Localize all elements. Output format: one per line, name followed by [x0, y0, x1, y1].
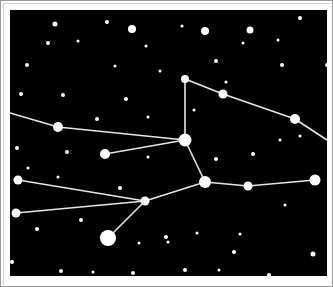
constellation-star: [12, 209, 21, 218]
background-star: [242, 42, 245, 45]
constellation-star: [14, 176, 23, 185]
constellation-star: [290, 114, 300, 124]
background-star: [159, 70, 162, 73]
background-star: [114, 65, 117, 68]
background-star: [164, 235, 168, 239]
background-star: [193, 109, 196, 112]
background-star: [299, 135, 302, 138]
background-star: [77, 40, 80, 43]
background-star: [15, 146, 19, 150]
background-star: [65, 150, 69, 154]
background-star: [25, 63, 29, 67]
constellation-star: [100, 149, 110, 159]
background-star: [92, 271, 95, 274]
constellation-star: [219, 90, 228, 99]
constellation-star: [53, 122, 63, 132]
background-star: [19, 92, 23, 96]
background-star: [218, 269, 221, 272]
background-star: [61, 93, 65, 97]
background-star: [311, 252, 316, 257]
background-star: [59, 269, 63, 273]
background-star: [232, 250, 236, 254]
background-star: [46, 41, 50, 45]
background-star: [124, 97, 128, 101]
background-star: [118, 186, 122, 190]
constellation-star: [199, 176, 211, 188]
background-star: [147, 116, 150, 119]
background-star: [183, 268, 187, 272]
background-star: [57, 176, 60, 179]
background-star: [214, 157, 218, 161]
background-star: [225, 81, 228, 84]
background-star: [147, 156, 150, 159]
background-star: [167, 241, 170, 244]
constellation-star: [179, 134, 192, 147]
background-star: [138, 242, 141, 245]
background-star: [201, 27, 209, 35]
background-star: [298, 16, 302, 20]
background-star: [284, 204, 287, 207]
background-star: [95, 117, 99, 121]
background-star: [128, 25, 136, 33]
constellation-star: [141, 197, 150, 206]
background-star: [145, 45, 148, 48]
background-star: [27, 167, 30, 170]
constellation-star: [244, 182, 253, 191]
background-star: [239, 233, 242, 236]
constellation-star: [181, 75, 189, 83]
star-map: [10, 10, 327, 276]
constellation-star: [310, 175, 321, 186]
background-star: [280, 63, 284, 67]
background-star: [251, 152, 255, 156]
background-star: [131, 271, 135, 275]
background-star: [279, 139, 282, 142]
background-star: [247, 27, 254, 34]
background-star: [214, 59, 218, 63]
background-star: [196, 232, 199, 235]
background-star: [277, 39, 280, 42]
background-star: [53, 22, 58, 27]
background-star: [10, 260, 14, 264]
background-star: [79, 218, 83, 222]
background-star: [105, 20, 109, 24]
background-star: [35, 227, 39, 231]
constellation-star: [100, 230, 116, 246]
background-star: [181, 25, 184, 28]
